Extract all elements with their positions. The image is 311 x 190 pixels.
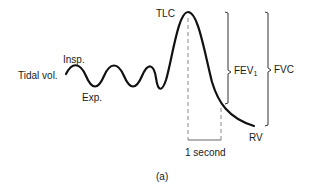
fev-subscript: 1 <box>253 70 257 77</box>
tidal-volume-label: Tidal vol. <box>18 71 58 81</box>
tlc-label: TLC <box>156 9 175 19</box>
fvc-bracket <box>265 12 271 126</box>
inspiration-label: Insp. <box>63 55 85 65</box>
fvc-label: FVC <box>274 65 294 75</box>
spirogram-diagram <box>0 0 311 190</box>
rv-label: RV <box>249 133 263 143</box>
panel-label: (a) <box>156 172 168 182</box>
time-interval-label: 1 second <box>185 148 226 158</box>
fev-text: FEV <box>234 65 253 76</box>
spirogram-curve <box>66 12 254 126</box>
fev1-label: FEV1 <box>234 66 257 79</box>
fev1-bracket <box>225 12 231 104</box>
expiration-label: Exp. <box>82 93 102 103</box>
